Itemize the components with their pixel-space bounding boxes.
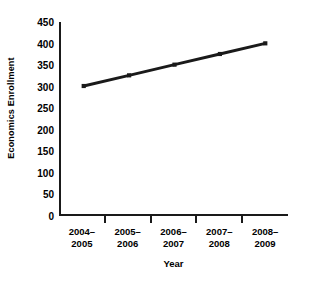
- x-axis-tick-label: 2004–2005: [69, 226, 95, 250]
- data-point-marker: [172, 63, 176, 67]
- x-axis-tick-label: 2008–2009: [252, 226, 278, 250]
- y-axis-tick-label: 0: [48, 211, 54, 222]
- x-axis-tick-mark: [104, 216, 106, 223]
- y-axis-title-text: Economics Enrollment: [6, 57, 16, 159]
- y-axis-tick-label: 150: [37, 146, 54, 157]
- y-axis-tick-label: 50: [43, 189, 54, 200]
- data-point-marker: [218, 52, 222, 56]
- x-axis-tick-mark: [241, 216, 243, 223]
- y-axis-tick-label: 400: [37, 38, 54, 49]
- y-axis-tick-label: 200: [37, 124, 54, 135]
- y-axis-tick-label: 250: [37, 103, 54, 114]
- x-axis-tick-label: 2006–2007: [160, 226, 186, 250]
- y-axis-title: Economics Enrollment: [0, 0, 22, 215]
- x-axis-tick-label: 2007–2008: [206, 226, 232, 250]
- line-series-svg: [61, 22, 288, 214]
- x-axis-tick-labels: 2004–20052005–20062006–20072007–20082008…: [59, 226, 288, 256]
- plot-area: [61, 22, 288, 214]
- data-point-marker: [82, 84, 86, 88]
- x-axis-tick-label: 2005–2006: [114, 226, 140, 250]
- y-axis-tick-label: 350: [37, 60, 54, 71]
- x-axis-tick-mark: [150, 216, 152, 223]
- data-point-marker: [127, 73, 131, 77]
- y-axis-tick-label: 300: [37, 81, 54, 92]
- y-axis-tick-labels: 050100150200250300350400450: [22, 22, 58, 216]
- x-axis-tick-mark: [195, 216, 197, 223]
- plot-frame: [59, 22, 288, 216]
- y-axis-tick-label: 450: [37, 17, 54, 28]
- chart-figure: Economics Enrollment 0501001502002503003…: [0, 0, 309, 282]
- x-axis-tick-marks: [59, 216, 288, 223]
- data-point-marker: [263, 41, 267, 45]
- x-axis-title: Year: [59, 258, 288, 269]
- y-axis-tick-label: 100: [37, 167, 54, 178]
